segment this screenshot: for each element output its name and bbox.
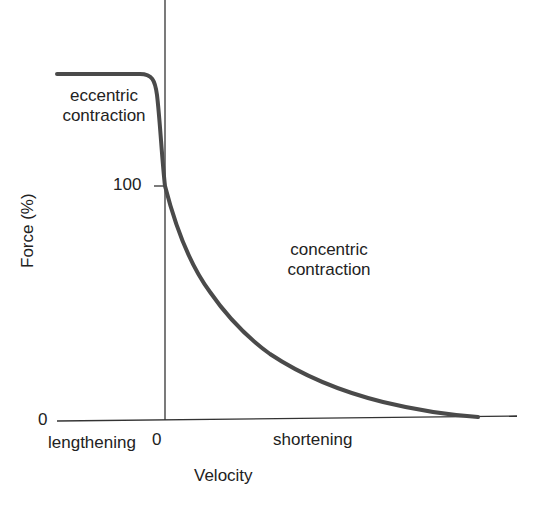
y-axis-label: Force (%) — [18, 193, 38, 268]
concentric-label-line2: contraction — [277, 260, 381, 280]
x-axis — [57, 416, 517, 421]
eccentric-label-line1: eccentric — [56, 86, 152, 106]
shortening-label: shortening — [273, 430, 352, 450]
concentric-label: concentric contraction — [277, 240, 381, 280]
eccentric-label: eccentric contraction — [56, 86, 152, 126]
concentric-label-line1: concentric — [277, 240, 381, 260]
y-tick-label-100: 100 — [113, 175, 141, 195]
eccentric-label-line2: contraction — [56, 106, 152, 126]
lengthening-label: lengthening — [48, 433, 136, 453]
x-tick-label-0: 0 — [152, 430, 161, 450]
y-tick-label-0: 0 — [38, 410, 47, 430]
x-axis-label: Velocity — [194, 466, 253, 486]
